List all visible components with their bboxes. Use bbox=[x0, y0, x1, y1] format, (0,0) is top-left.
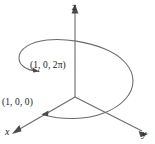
z-axis bbox=[72, 4, 79, 97]
point-label-helix-base: (1, 0, 0) bbox=[2, 98, 33, 108]
x-axis-label: x bbox=[5, 127, 9, 137]
helix-curve bbox=[19, 39, 133, 118]
x-axis-arrowhead bbox=[12, 125, 22, 134]
helix-diagram: z y x (1, 0, 2π) (1, 0, 0) bbox=[0, 0, 155, 144]
z-axis-label: z bbox=[72, 2, 76, 12]
helix-endpoint-dot bbox=[38, 70, 40, 72]
diagram-canvas bbox=[0, 0, 155, 144]
point-label-helix-top: (1, 0, 2π) bbox=[30, 61, 66, 71]
y-axis-label: y bbox=[142, 129, 146, 139]
